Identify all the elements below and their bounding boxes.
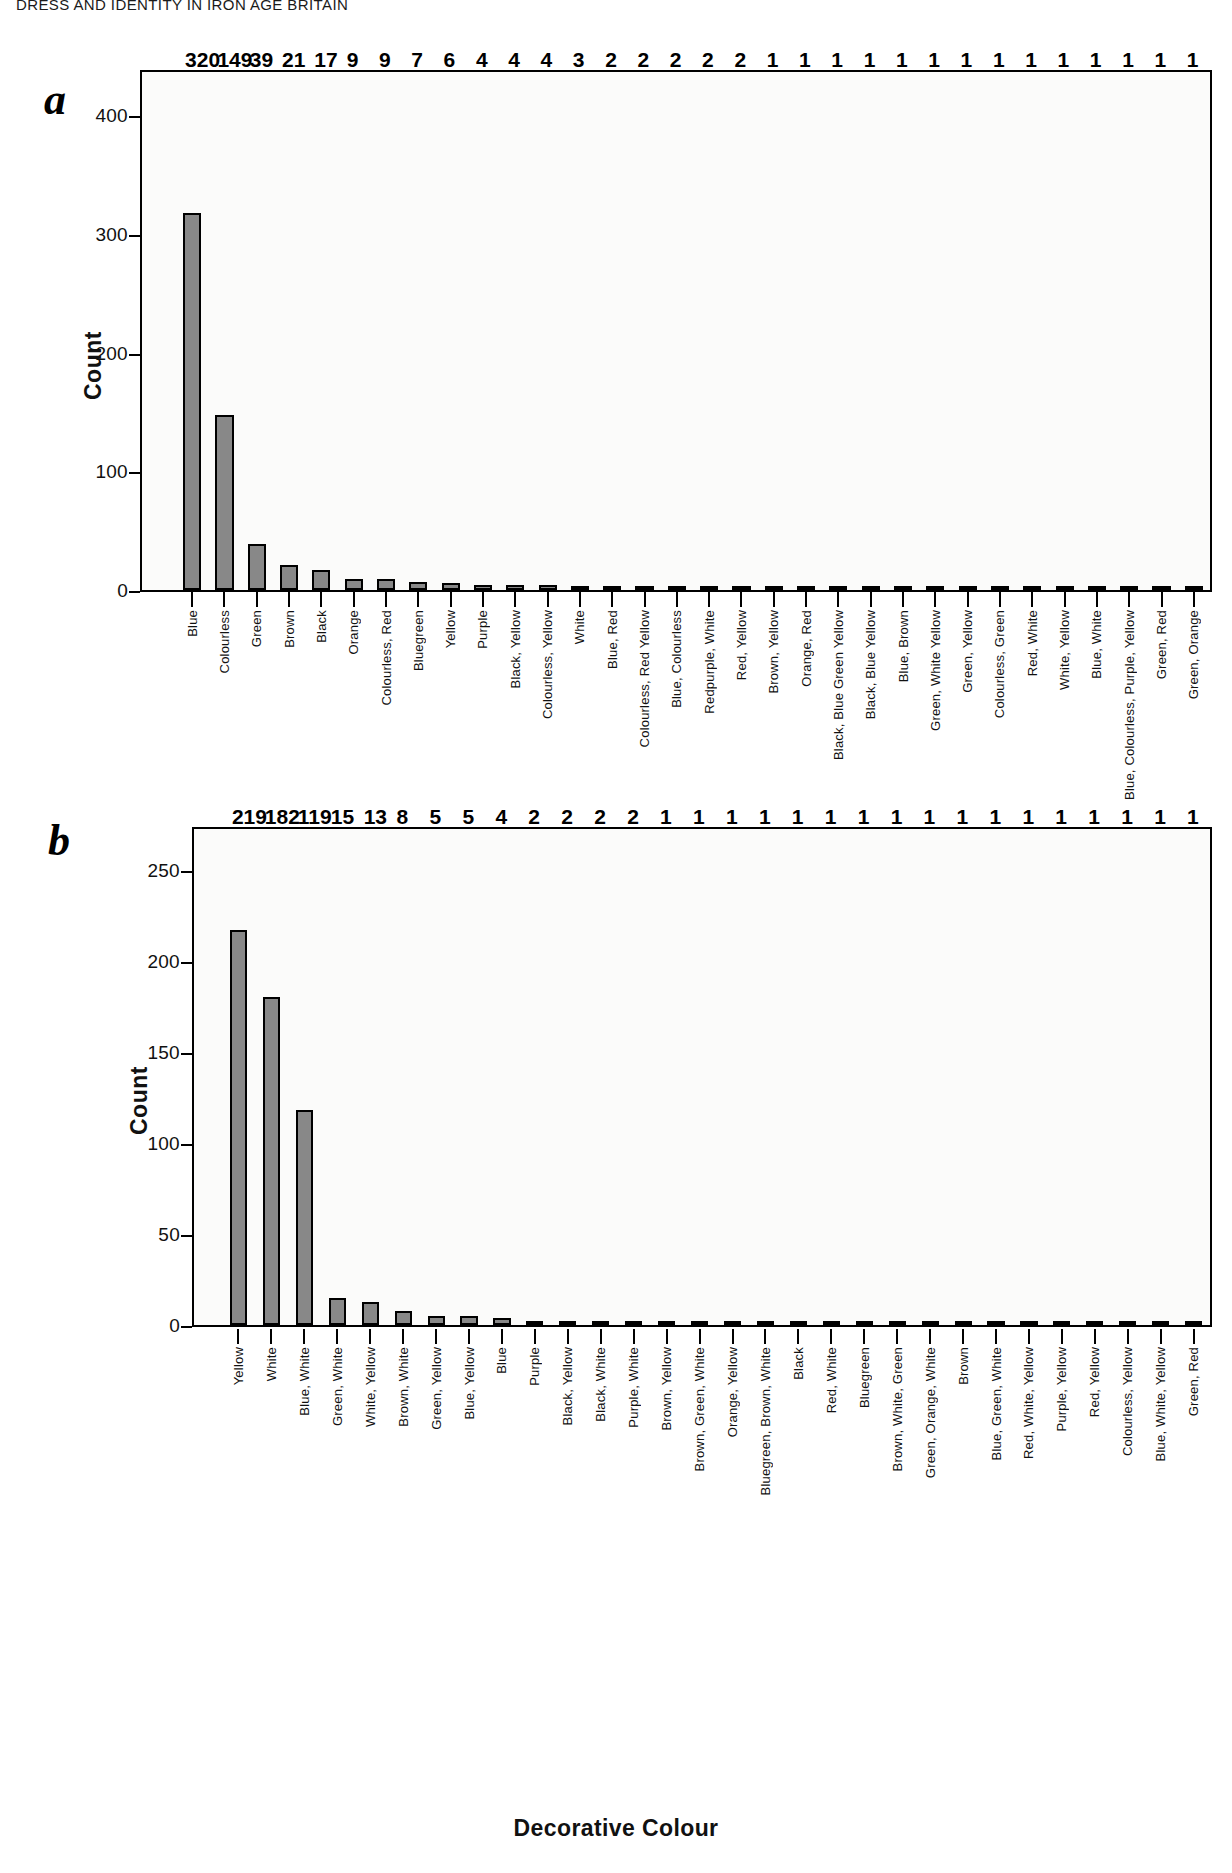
- bar[interactable]: 1: [1119, 1321, 1136, 1325]
- bar-slot: 1: [881, 829, 914, 1325]
- bar[interactable]: 1: [1152, 1321, 1169, 1325]
- x-tick-label: Red, White: [824, 1347, 839, 1413]
- bar[interactable]: 1: [987, 1321, 1004, 1325]
- bar-value-label: 1: [1187, 49, 1199, 70]
- bar[interactable]: 7: [409, 582, 427, 590]
- bar[interactable]: 2: [625, 1321, 642, 1325]
- bar[interactable]: 1: [922, 1321, 939, 1325]
- bar[interactable]: 1: [1152, 586, 1170, 590]
- bar-value-label: 1: [767, 49, 779, 70]
- bar[interactable]: 2: [668, 586, 686, 590]
- bar-slot: 1: [1016, 72, 1048, 590]
- bar[interactable]: 219: [230, 930, 247, 1325]
- x-tick-slot: Blue, White: [288, 1329, 321, 1629]
- bar[interactable]: 1: [1086, 1321, 1103, 1325]
- bar[interactable]: 1: [1056, 586, 1074, 590]
- y-tick-mark: [129, 235, 140, 237]
- bar[interactable]: 1: [797, 586, 815, 590]
- running-head: DRESS AND IDENTITY IN IRON AGE BRITAIN: [16, 0, 348, 13]
- bar[interactable]: 2: [559, 1321, 576, 1325]
- bar[interactable]: 21: [280, 565, 298, 590]
- bar[interactable]: 1: [691, 1321, 708, 1325]
- bar[interactable]: 6: [442, 583, 460, 590]
- bar[interactable]: 8: [395, 1311, 412, 1325]
- bar[interactable]: 1: [765, 586, 783, 590]
- bar-value-label: 2: [734, 49, 746, 70]
- bar[interactable]: 1: [829, 586, 847, 590]
- x-tick-mark: [369, 1329, 371, 1344]
- bar[interactable]: 1: [790, 1321, 807, 1325]
- x-tick-slot: Brown, White: [387, 1329, 420, 1629]
- bar[interactable]: 9: [377, 579, 395, 590]
- bar-slot: 17: [305, 72, 337, 590]
- bar[interactable]: 1: [862, 586, 880, 590]
- bar[interactable]: 1: [823, 1321, 840, 1325]
- bar[interactable]: 2: [592, 1321, 609, 1325]
- x-tick-mark: [1028, 1329, 1030, 1344]
- y-tick-mark: [129, 472, 140, 474]
- bar[interactable]: 1: [1185, 586, 1203, 590]
- bar-slot: 1: [683, 829, 716, 1325]
- bar[interactable]: 1: [1088, 586, 1106, 590]
- bar-value-label: 9: [379, 49, 391, 70]
- bar[interactable]: 13: [362, 1302, 379, 1325]
- x-tick-mark: [501, 1329, 503, 1344]
- bar[interactable]: 2: [603, 586, 621, 590]
- bar[interactable]: 15: [329, 1298, 346, 1325]
- bar[interactable]: 4: [474, 585, 492, 590]
- bar[interactable]: 2: [700, 586, 718, 590]
- bar-slot: 6: [435, 72, 467, 590]
- bar[interactable]: 1: [926, 586, 944, 590]
- x-tick-label: Blue, Yellow: [462, 1347, 477, 1420]
- bar[interactable]: 5: [460, 1316, 477, 1325]
- bar-slot: 119: [288, 829, 321, 1325]
- bar[interactable]: 4: [493, 1318, 510, 1325]
- bar[interactable]: 2: [526, 1321, 543, 1325]
- bar[interactable]: 2: [635, 586, 653, 590]
- x-tick-slot: Red, Yellow: [1078, 1329, 1111, 1629]
- bar-slot: 3: [564, 72, 596, 590]
- bar[interactable]: 320: [183, 213, 201, 590]
- bar[interactable]: 5: [428, 1316, 445, 1325]
- x-tick-label: Colourless, Green: [992, 610, 1007, 718]
- bar[interactable]: 1: [1023, 586, 1041, 590]
- bar[interactable]: 1: [959, 586, 977, 590]
- x-tick-slot: Green, Orange, White: [914, 1329, 947, 1629]
- x-tick-mark: [320, 592, 322, 607]
- bar[interactable]: 182: [263, 997, 280, 1325]
- bar[interactable]: 9: [345, 579, 363, 590]
- bar-slot: 149: [208, 72, 240, 590]
- figure-panel-b: b Count 050100150200250 2191821191513855…: [0, 815, 1232, 1865]
- bar[interactable]: 149: [215, 415, 233, 590]
- bar[interactable]: 4: [506, 585, 524, 590]
- bar[interactable]: 1: [1120, 586, 1138, 590]
- bar[interactable]: 2: [732, 586, 750, 590]
- bar[interactable]: 1: [1020, 1321, 1037, 1325]
- bar[interactable]: 119: [296, 1110, 313, 1325]
- bar[interactable]: 17: [312, 570, 330, 590]
- bar[interactable]: 3: [571, 586, 589, 590]
- bar[interactable]: 4: [539, 585, 557, 590]
- bar[interactable]: 39: [248, 544, 266, 590]
- bar[interactable]: 1: [1185, 1321, 1202, 1325]
- bar-value-label: 1: [961, 49, 973, 70]
- bar[interactable]: 1: [757, 1321, 774, 1325]
- y-tick-mark: [181, 1326, 192, 1328]
- bar[interactable]: 1: [856, 1321, 873, 1325]
- x-tick-label: Green: [249, 610, 264, 647]
- bar[interactable]: 1: [658, 1321, 675, 1325]
- bar[interactable]: 1: [1053, 1321, 1070, 1325]
- x-tick-slot: Orange, Yellow: [716, 1329, 749, 1629]
- x-tick-label: Red, Yellow: [1087, 1347, 1102, 1417]
- x-tick-mark: [482, 592, 484, 607]
- bar[interactable]: 1: [955, 1321, 972, 1325]
- bar-slot: 1: [758, 72, 790, 590]
- bar-slot: 5: [453, 829, 486, 1325]
- bar-slot: 4: [531, 72, 563, 590]
- bar[interactable]: 1: [889, 1321, 906, 1325]
- bar[interactable]: 1: [724, 1321, 741, 1325]
- bar-value-label: 2: [637, 49, 649, 70]
- bar[interactable]: 1: [894, 586, 912, 590]
- bar[interactable]: 1: [991, 586, 1009, 590]
- x-tick-mark: [863, 1329, 865, 1344]
